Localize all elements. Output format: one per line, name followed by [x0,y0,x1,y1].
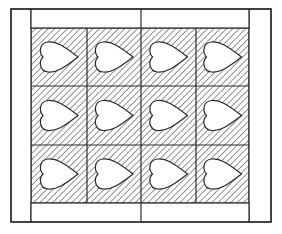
right-border-strip [249,9,271,222]
top-border-strip [31,9,249,28]
quilt-diagram [0,0,282,234]
left-border-strip [11,9,31,222]
bottom-border-strip [31,203,249,222]
